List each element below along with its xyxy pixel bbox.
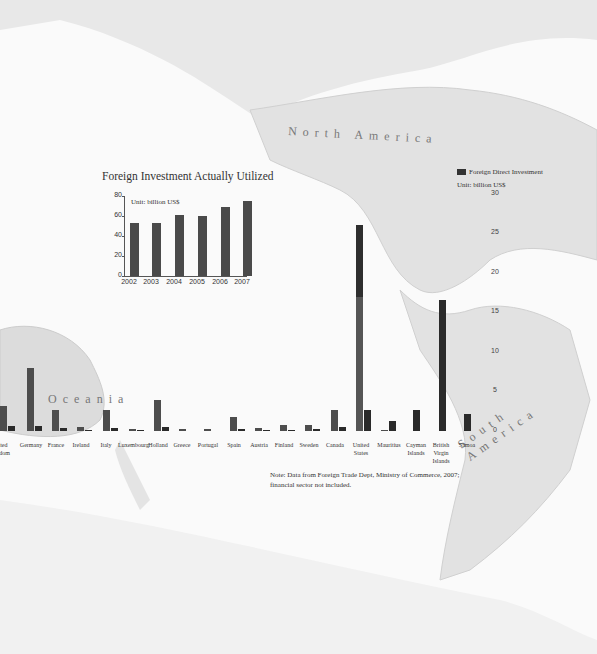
inset-ytick: 60 (109, 211, 122, 218)
bar (111, 428, 118, 431)
inset-plot-area: Unit: billion US$ 80 60 40 20 0 (124, 196, 247, 277)
bar (230, 417, 237, 431)
bar (313, 429, 320, 431)
inset-ytick: 80 (109, 191, 122, 198)
bar (8, 426, 15, 431)
inset-chart-title: Foreign Investment Actually Utilized (102, 170, 274, 182)
ytick: 0 (488, 426, 502, 433)
bar (179, 429, 186, 431)
bar (439, 300, 446, 431)
xlabel-cayman-islands: CaymanIslands (401, 441, 431, 457)
inset-xlabel: 2007 (231, 278, 253, 285)
bar (27, 368, 34, 431)
unit-label: Unit: billion US$ (457, 181, 506, 189)
inset-ytick: 20 (109, 251, 122, 258)
inset-xlabel: 2005 (186, 278, 208, 285)
inset-ytick: 40 (109, 231, 122, 238)
bar (137, 430, 144, 431)
bar (364, 410, 371, 431)
legend-swatch-icon (457, 169, 466, 175)
bar (389, 421, 396, 431)
legend: Foreign Direct Investment (457, 168, 543, 176)
bar (0, 406, 7, 431)
bar (103, 410, 110, 431)
bar (280, 425, 287, 431)
inset-bar-2006 (221, 207, 230, 277)
bar (238, 429, 245, 431)
legend-label: Foreign Direct Investment (469, 168, 543, 176)
bar (60, 428, 67, 431)
xlabel-united-states: UnitedStates (346, 441, 376, 457)
inset-xlabel: 2004 (163, 278, 185, 285)
bar (52, 410, 59, 431)
inset-bar-2004 (175, 215, 184, 276)
inset-xlabel: 2006 (209, 278, 231, 285)
bar (356, 225, 363, 431)
ytick: 10 (488, 347, 502, 354)
xlabel-samoa: Samoa (452, 441, 482, 449)
bar (464, 414, 471, 431)
inset-bar-2003 (152, 223, 161, 277)
bar (288, 430, 295, 431)
map-label-oceania: Oceania (48, 392, 129, 407)
bar (413, 410, 420, 431)
bar (381, 430, 388, 431)
xlabel-british-virgin-islands: BritishVirgin Islands (430, 441, 452, 465)
bar (162, 427, 169, 431)
inset-bar-2005 (198, 216, 207, 276)
world-map-background (0, 0, 597, 654)
inset-xlabel: 2002 (118, 278, 140, 285)
ytick: 30 (488, 189, 502, 196)
inset-chart: Foreign Investment Actually Utilized Uni… (96, 170, 258, 290)
ytick: 20 (488, 268, 502, 275)
bar (35, 426, 42, 431)
inset-bar-2002 (130, 223, 139, 276)
xlabel-mauritius: Mauritius (374, 441, 404, 449)
inset-ytick: 0 (109, 271, 122, 278)
ytick: 25 (488, 228, 502, 235)
inset-bar-2007 (243, 201, 252, 276)
bar (305, 425, 312, 431)
bar (331, 410, 338, 431)
inset-unit-label: Unit: billion US$ (131, 198, 180, 206)
bar (85, 430, 92, 431)
ytick: 15 (488, 307, 502, 314)
bar (255, 428, 262, 431)
bar (154, 400, 161, 431)
xlabel-italy: Italy (91, 441, 121, 449)
inset-xlabel: 2003 (140, 278, 162, 285)
bar (339, 427, 346, 431)
bar (263, 430, 270, 431)
ytick: 5 (488, 386, 502, 393)
source-note: Note: Data from Foreign Trade Dept, Mini… (270, 470, 480, 490)
bar (77, 427, 84, 431)
bar (129, 429, 136, 431)
bar (204, 429, 211, 431)
